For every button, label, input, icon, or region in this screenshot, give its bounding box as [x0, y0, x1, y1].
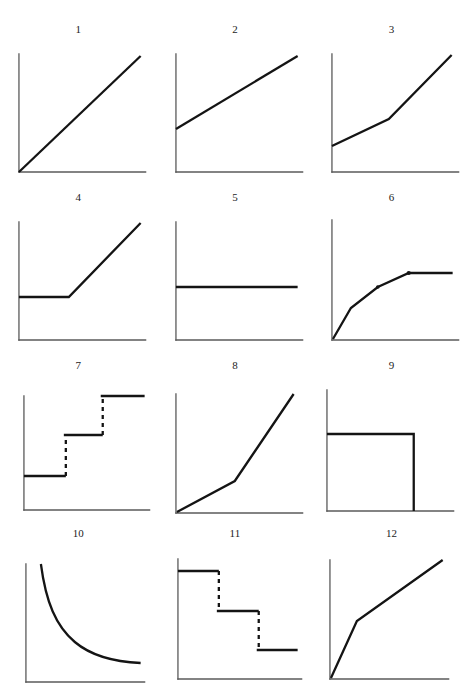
chart-panel-8: 8 — [157, 358, 314, 526]
chart-plot-4 — [0, 200, 157, 358]
data-line — [177, 394, 294, 512]
chart-plot-8 — [157, 368, 314, 526]
chart-plot-6 — [313, 200, 470, 358]
chart-panel-7: 7 — [0, 358, 157, 526]
chart-panel-11: 11 — [157, 526, 314, 694]
data-line — [327, 434, 414, 511]
chart-panel-4: 4 — [0, 190, 157, 358]
chart-panel-6: 6 — [313, 190, 470, 358]
chart-plot-7 — [0, 368, 157, 526]
chart-plot-9 — [313, 368, 470, 526]
data-curve — [41, 564, 141, 663]
panel-grid: 1 2 3 — [0, 22, 470, 694]
data-line — [19, 223, 141, 297]
chart-panel-10: 10 — [0, 526, 157, 694]
chart-plot-1 — [0, 32, 157, 190]
chart-plot-12 — [313, 536, 470, 694]
data-vertex-marker — [407, 271, 411, 275]
data-vertex-marker — [376, 285, 380, 289]
chart-panel-5: 5 — [157, 190, 314, 358]
data-line — [333, 273, 453, 339]
data-line — [176, 56, 298, 129]
chart-panel-1: 1 — [0, 22, 157, 190]
chart-panel-3: 3 — [313, 22, 470, 190]
data-line — [19, 56, 141, 172]
data-line — [332, 55, 452, 146]
chart-plot-11 — [157, 536, 314, 694]
chart-panel-2: 2 — [157, 22, 314, 190]
chart-plot-5 — [157, 200, 314, 358]
chart-plot-3 — [313, 32, 470, 190]
figure-page: 1 2 3 — [0, 0, 470, 694]
chart-panel-12: 12 — [313, 526, 470, 694]
chart-plot-10 — [0, 536, 157, 694]
chart-plot-2 — [157, 32, 314, 190]
chart-panel-9: 9 — [313, 358, 470, 526]
data-line — [331, 560, 443, 678]
